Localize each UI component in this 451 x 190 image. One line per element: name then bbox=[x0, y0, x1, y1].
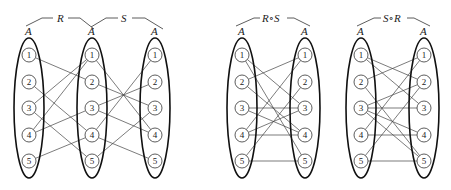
node-label: 2 bbox=[422, 77, 427, 87]
node-3: 3 bbox=[85, 101, 99, 115]
node-5: 5 bbox=[298, 154, 312, 168]
node-label: 2 bbox=[240, 77, 245, 87]
node-2: 2 bbox=[22, 75, 36, 89]
node-label: 3 bbox=[90, 103, 95, 113]
label-S: S bbox=[121, 12, 127, 24]
set-label: A bbox=[237, 25, 245, 37]
set-label: A bbox=[87, 25, 95, 37]
node-3: 3 bbox=[148, 101, 162, 115]
node-label: 3 bbox=[422, 103, 427, 113]
brace-SoR: S∘R bbox=[357, 12, 430, 26]
node-label: 2 bbox=[303, 77, 308, 87]
node-1: 1 bbox=[417, 48, 431, 62]
node-3: 3 bbox=[22, 101, 36, 115]
edge-R-2-4 bbox=[34, 87, 86, 131]
relation-composition-figure: R S R∘S S∘R AAAAAAA 12345123451234512345… bbox=[0, 0, 451, 190]
node-label: 1 bbox=[422, 50, 427, 60]
node-1: 1 bbox=[148, 48, 162, 62]
node-4: 4 bbox=[298, 128, 312, 142]
set-label: A bbox=[356, 25, 364, 37]
node-2: 2 bbox=[148, 75, 162, 89]
edge-R∘S-2-4 bbox=[247, 87, 299, 131]
set-label: A bbox=[150, 25, 158, 37]
node-label: 5 bbox=[303, 156, 308, 166]
node-1: 1 bbox=[235, 48, 249, 62]
node-5: 5 bbox=[417, 154, 431, 168]
node-3: 3 bbox=[235, 101, 249, 115]
node-4: 4 bbox=[85, 128, 99, 142]
set-label: A bbox=[24, 25, 32, 37]
node-label: 4 bbox=[153, 130, 158, 140]
node-label: 2 bbox=[359, 77, 364, 87]
set-label: A bbox=[419, 25, 427, 37]
node-4: 4 bbox=[235, 128, 249, 142]
diagram-canvas: R S R∘S S∘R AAAAAAA 12345123451234512345… bbox=[0, 0, 451, 190]
node-1: 1 bbox=[354, 48, 368, 62]
node-label: 3 bbox=[240, 103, 245, 113]
node-label: 5 bbox=[359, 156, 364, 166]
brace-R: R bbox=[26, 12, 94, 29]
node-2: 2 bbox=[417, 75, 431, 89]
node-label: 1 bbox=[90, 50, 95, 60]
node-3: 3 bbox=[354, 101, 368, 115]
node-label: 4 bbox=[27, 130, 32, 140]
set-ellipses-layer: AAAAAAA bbox=[14, 25, 439, 178]
node-label: 2 bbox=[27, 77, 32, 87]
node-4: 4 bbox=[22, 128, 36, 142]
node-label: 5 bbox=[90, 156, 95, 166]
node-1: 1 bbox=[298, 48, 312, 62]
node-label: 4 bbox=[240, 130, 245, 140]
set-label: A bbox=[300, 25, 308, 37]
node-label: 4 bbox=[90, 130, 95, 140]
node-4: 4 bbox=[148, 128, 162, 142]
node-4: 4 bbox=[354, 128, 368, 142]
node-label: 3 bbox=[27, 103, 32, 113]
node-5: 5 bbox=[148, 154, 162, 168]
node-2: 2 bbox=[298, 75, 312, 89]
node-label: 1 bbox=[27, 50, 32, 60]
node-label: 1 bbox=[303, 50, 308, 60]
node-2: 2 bbox=[354, 75, 368, 89]
node-label: 4 bbox=[359, 130, 364, 140]
node-5: 5 bbox=[85, 154, 99, 168]
node-1: 1 bbox=[85, 48, 99, 62]
node-3: 3 bbox=[298, 101, 312, 115]
brace-RoS: R∘S bbox=[236, 12, 310, 26]
node-label: 5 bbox=[240, 156, 245, 166]
node-label: 3 bbox=[303, 103, 308, 113]
node-label: 2 bbox=[153, 77, 158, 87]
node-1: 1 bbox=[22, 48, 36, 62]
node-label: 1 bbox=[240, 50, 245, 60]
node-label: 3 bbox=[359, 103, 364, 113]
node-4: 4 bbox=[417, 128, 431, 142]
node-label: 5 bbox=[27, 156, 32, 166]
node-2: 2 bbox=[235, 75, 249, 89]
node-label: 1 bbox=[153, 50, 158, 60]
node-label: 4 bbox=[303, 130, 308, 140]
node-label: 3 bbox=[153, 103, 158, 113]
node-label: 4 bbox=[422, 130, 427, 140]
node-5: 5 bbox=[354, 154, 368, 168]
node-label: 5 bbox=[422, 156, 427, 166]
node-label: 1 bbox=[359, 50, 364, 60]
node-label: 5 bbox=[153, 156, 158, 166]
node-5: 5 bbox=[235, 154, 249, 168]
label-RoS: R∘S bbox=[261, 12, 280, 24]
label-R: R bbox=[56, 12, 64, 24]
node-label: 2 bbox=[90, 77, 95, 87]
node-2: 2 bbox=[85, 75, 99, 89]
label-SoR: S∘R bbox=[383, 12, 401, 24]
node-3: 3 bbox=[417, 101, 431, 115]
node-5: 5 bbox=[22, 154, 36, 168]
